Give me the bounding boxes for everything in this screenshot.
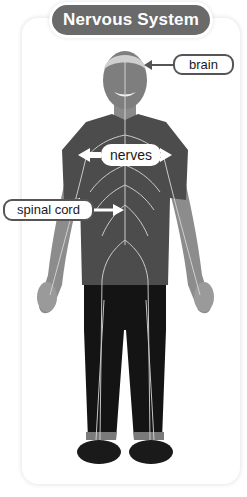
label-brain: brain bbox=[173, 54, 234, 75]
page-title: Nervous System bbox=[52, 5, 210, 35]
label-spinal-cord: spinal cord bbox=[3, 199, 94, 221]
label-nerves: nerves bbox=[101, 144, 161, 166]
